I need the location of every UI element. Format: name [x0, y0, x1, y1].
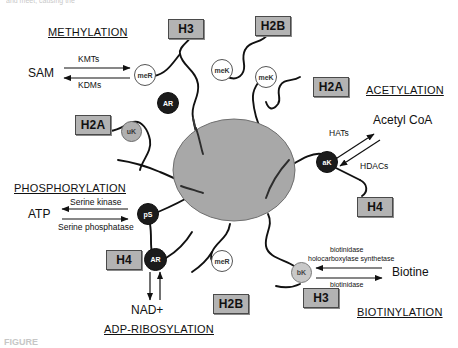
enzyme-kmts: KMTs: [78, 54, 99, 64]
substrate-acetyl-coa: Acetyl CoA: [373, 113, 432, 127]
marker-label: aK: [323, 159, 332, 166]
substrate-atp: ATP: [28, 207, 50, 221]
marker-label: meK: [214, 67, 229, 74]
substrate-biotine: Biotine: [392, 265, 429, 279]
substrate-nad: NAD+: [131, 303, 163, 317]
section-title-adp-ribosylation: ADP-RIBOSYLATION: [104, 323, 214, 335]
histone-box-h3-bottom: H3: [303, 288, 339, 308]
enzyme-serine-kinase: Serine kinase: [70, 197, 122, 207]
marker-AR-top: AR: [157, 92, 179, 114]
histone-label: H4: [367, 200, 383, 214]
enzyme-holocarboxylase-synthetase: holocarboxylase synthetase: [308, 255, 394, 262]
histone-box-h2b-top: H2B: [255, 16, 291, 36]
histone-box-h2a-left: H2A: [75, 115, 111, 135]
histone-box-h4-right: H4: [357, 197, 393, 217]
enzyme-hdacs: HDACs: [360, 161, 388, 171]
marker-label: uK: [127, 128, 136, 135]
section-title-biotinylation: BIOTINYLATION: [357, 306, 443, 318]
histone-box-h2b-bottom: H2B: [213, 294, 249, 314]
figure-canvas: and meet, causing the FIGURE: [0, 0, 458, 348]
marker-meK-top: meK: [211, 59, 233, 81]
section-title-phosphorylation: PHOSPHORYLATION: [14, 182, 126, 194]
section-title-methylation: METHYLATION: [48, 26, 128, 38]
histone-box-h4-left: H4: [106, 250, 142, 270]
marker-meR-top: meR: [134, 64, 156, 86]
histone-label: H3: [178, 22, 194, 36]
histone-label: H4: [116, 253, 132, 267]
histone-label: H2A: [319, 80, 344, 94]
histone-label: H2B: [219, 297, 244, 311]
marker-label: AR: [163, 100, 173, 107]
enzyme-biotinidase-forward: biotinidase: [330, 246, 363, 253]
marker-label: meR: [214, 258, 229, 265]
substrate-sam: SAM: [28, 66, 54, 80]
enzyme-kdms: KDMs: [78, 80, 101, 90]
enzyme-hats: HATs: [329, 128, 349, 138]
marker-label: AR: [150, 256, 160, 263]
histone-label: H2B: [261, 19, 286, 33]
histone-box-h2a-right: H2A: [313, 77, 349, 97]
marker-AR-bottom: AR: [144, 248, 167, 271]
histone-label: H3: [313, 291, 329, 305]
enzyme-biotinidase-reverse: biotinidase: [330, 281, 363, 288]
marker-pS-left: pS: [137, 203, 159, 225]
enzyme-serine-phosphatase: Serine phosphatase: [58, 222, 134, 232]
marker-label: meK: [258, 74, 273, 81]
marker-bK-right: bK: [291, 262, 312, 283]
histone-label: H2A: [81, 118, 106, 132]
marker-uK-left: uK: [121, 121, 142, 142]
histone-box-h3-top: H3: [168, 19, 204, 39]
marker-label: meR: [137, 72, 152, 79]
marker-label: bK: [297, 269, 306, 276]
marker-meK-right: meK: [255, 66, 277, 88]
section-title-acetylation: ACETYLATION: [366, 84, 444, 96]
marker-aK-right: aK: [316, 151, 338, 173]
marker-meR-bottom: meR: [211, 250, 233, 272]
marker-label: pS: [144, 211, 153, 218]
